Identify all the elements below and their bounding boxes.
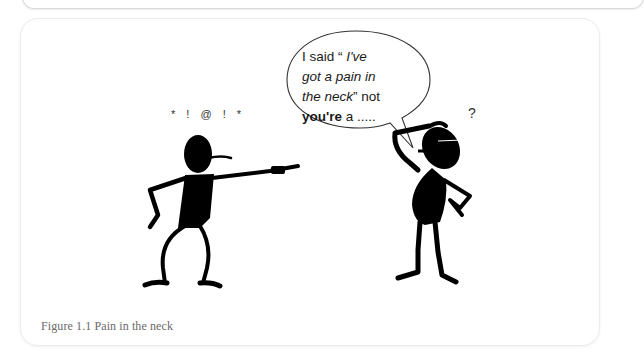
speech-bubble-text: I said “ I've got a pain in the neck” no… [302,47,412,127]
expletive-symbols: * ! @ ! * [171,108,245,120]
question-mark-icon: ? [468,105,476,121]
right-stick-figure-icon [395,120,470,282]
figure-caption: Figure 1.1 Pain in the neck [41,319,173,334]
left-stick-figure-icon [145,135,298,286]
